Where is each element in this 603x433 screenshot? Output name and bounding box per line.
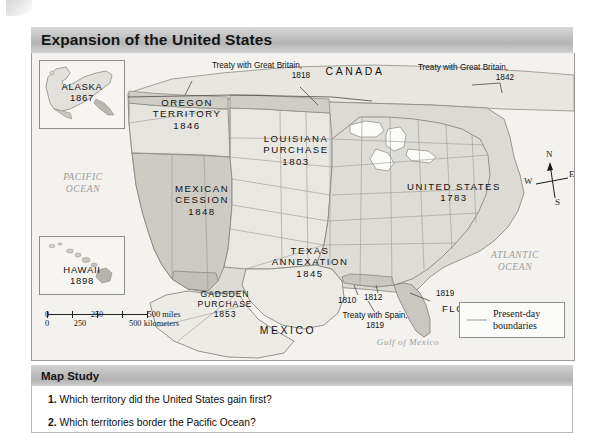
page-title: Expansion of the United States xyxy=(31,31,272,49)
year-1819-label: 1819 xyxy=(436,289,454,299)
inset-hawaii-label: HAWAII xyxy=(40,264,124,275)
compass-east: E xyxy=(569,169,575,179)
oregon-territory-label: OREGON TERRITORY 1846 xyxy=(142,97,232,131)
map-study-title: Map Study xyxy=(31,370,99,382)
scale-bar-graphic xyxy=(44,311,194,318)
map-canvas: ALASKA 1867 HAWAII 1898 PACIFIC OCEAN xyxy=(31,53,575,361)
louisiana-purchase-label: LOUISIANA PURCHASE 1803 xyxy=(244,133,348,167)
scale-bar: 0 250 500 miles 0 250 500 kilometers xyxy=(44,310,194,319)
texas-annexation-label: TEXAS ANNEXATION 1845 xyxy=(254,245,366,279)
map-study-body: 1. Which territory did the United States… xyxy=(31,386,573,433)
inset-hawaii-year: 1898 xyxy=(40,275,124,286)
compass-west: W xyxy=(524,176,533,186)
map-study-header: Map Study xyxy=(31,365,573,386)
legend-line-swatch xyxy=(467,319,487,321)
question-2: 2. Which territories border the Pacific … xyxy=(48,417,256,428)
scale-kilometers-ticks: 0 250 500 kilometers xyxy=(44,319,194,330)
treaty-spain-1819-label: Treaty with Spain, 1819 xyxy=(320,311,430,330)
question-2-text: Which territories border the Pacific Oce… xyxy=(59,417,255,428)
map-title-bar: Expansion of the United States xyxy=(31,27,573,53)
question-1-text: Which territory did the United States ga… xyxy=(59,394,271,405)
pacific-ocean-label: PACIFIC OCEAN xyxy=(52,171,114,195)
treaty-great-britain-1818-label: Treaty with Great Britain, 1818 xyxy=(192,61,322,80)
compass-rose: N E S W xyxy=(524,150,575,212)
atlantic-ocean-label: ATLANTIC OCEAN xyxy=(480,249,550,273)
inset-alaska: ALASKA 1867 xyxy=(39,60,125,129)
inset-alaska-label: ALASKA xyxy=(40,81,124,92)
mexico-label: MEXICO xyxy=(248,325,328,337)
gulf-of-mexico-label: Gulf of Mexico xyxy=(360,337,456,348)
year-1810-label: 1810 xyxy=(338,296,356,306)
united-states-label: UNITED STATES 1783 xyxy=(394,181,514,204)
legend-text: Present-day boundaries xyxy=(493,308,540,332)
question-1-number: 1. xyxy=(48,394,57,405)
treaty-great-britain-1842-label: Treaty with Great Britain, 1842 xyxy=(398,63,528,82)
page-curl-decoration xyxy=(6,0,32,16)
question-2-number: 2. xyxy=(48,417,57,428)
compass-north: N xyxy=(546,149,553,159)
question-1: 1. Which territory did the United States… xyxy=(48,394,272,405)
mexican-cession-label: MEXICAN CESSION 1848 xyxy=(156,183,248,217)
map-page: Expansion of the United States xyxy=(0,0,603,433)
compass-south: S xyxy=(555,197,560,207)
map-legend: Present-day boundaries xyxy=(459,302,565,338)
canada-label: CANADA xyxy=(310,66,400,78)
year-1812-label: 1812 xyxy=(364,293,382,303)
inset-alaska-year: 1867 xyxy=(40,92,124,103)
inset-hawaii: HAWAII 1898 xyxy=(39,236,125,295)
